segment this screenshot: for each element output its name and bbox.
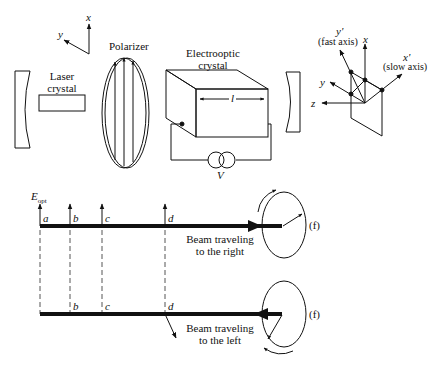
beam-right-caption-line2: to the right [180,245,260,257]
electrooptic-crystal [166,70,268,137]
e-opt-label: Eopt [31,190,47,207]
electrooptic-label-line2: crystal [180,59,246,71]
right-mirror [286,72,300,132]
beam-left-caption-line1: Beam traveling [180,322,260,334]
projection-lines [40,230,165,314]
x-axis-label: x [86,11,91,23]
laser-crystal-label-line1: Laser [42,70,82,82]
point-b-label-lower: b [73,300,79,312]
voltage-label: V [217,169,224,181]
point-a-label: a [43,212,49,224]
laser-crystal [39,95,85,111]
beam-right-caption-line1: Beam traveling [180,233,260,245]
fast-axis-label: (fast axis) [318,36,358,48]
inset-x-label: x [363,33,368,45]
beam-right-position-label: (f) [309,219,320,231]
point-c-label: c [105,212,110,224]
left-mirror [15,71,30,148]
slow-axis-label: (slow axis) [383,61,427,73]
crystal-length-label: l [229,92,236,104]
beam-left [40,281,306,354]
y-axis-label: y [58,28,63,40]
electrooptic-modulator-diagram: x y Laser crystal Polarizer Electrooptic… [0,0,444,372]
point-b-label: b [73,212,79,224]
polarizer-label: Polarizer [109,40,149,52]
beam-left-caption-line2: to the left [180,334,260,346]
inset-y-label: y [320,76,325,88]
inset-z-label: z [311,97,315,109]
voltage-circuit [171,122,271,168]
electrooptic-label-line1: Electrooptic [180,47,246,59]
xy-coordinate-axes [64,24,89,54]
point-d-label-lower: d [168,300,174,312]
beam-left-position-label: (f) [309,308,320,320]
polarizer [102,58,149,168]
beam-right [40,190,306,258]
point-c-label-lower: c [105,300,110,312]
laser-crystal-label-line2: crystal [42,82,82,94]
principal-axes-inset [322,44,402,136]
point-d-label: d [168,212,174,224]
